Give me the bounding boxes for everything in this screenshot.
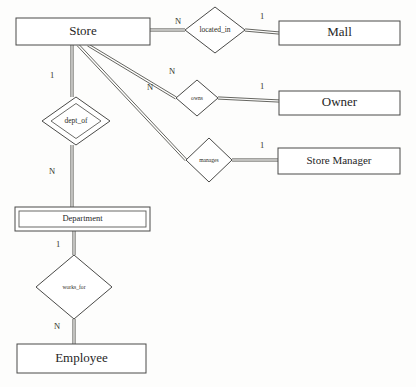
- cardinality-department-works_for: 1: [56, 239, 60, 249]
- relationship-works_for[interactable]: works_for: [36, 255, 112, 319]
- connector-layer: [71, 29, 279, 344]
- relationship-label: manages: [199, 157, 219, 163]
- cardinality-store-manages: N: [147, 82, 153, 92]
- entity-label: Department: [62, 213, 103, 223]
- entity-department[interactable]: Department: [15, 207, 150, 231]
- connector-located_in-to-mall: [245, 29, 279, 34]
- entity-label: Store: [69, 23, 97, 38]
- connector-department-to-works_for: [73, 231, 75, 255]
- entity-label: Mall: [327, 24, 352, 39]
- connector-store-to-located_in: [150, 29, 185, 31]
- cardinality-works_for-employee: N: [54, 321, 60, 331]
- connector-store-to-manages: [77, 44, 187, 161]
- cardinality-dept_of-department: N: [49, 166, 55, 176]
- relationship-located_in[interactable]: located_in: [185, 7, 245, 53]
- cardinality-store-owns: N: [169, 66, 175, 76]
- entity-store[interactable]: Store: [16, 18, 150, 45]
- connector-works_for-to-employee: [73, 319, 75, 344]
- entity-mall[interactable]: Mall: [279, 21, 400, 45]
- cardinality-store-located_in: N: [175, 16, 181, 26]
- connector-manages-to-store_manager: [232, 159, 278, 161]
- entity-employee[interactable]: Employee: [17, 344, 146, 373]
- relationship-layer: located_inownsmanagesdept_ofworks_for: [36, 7, 245, 319]
- entity-owner[interactable]: Owner: [279, 91, 400, 115]
- relationship-manages[interactable]: manages: [186, 138, 232, 182]
- entity-store_manager[interactable]: Store Manager: [278, 148, 400, 174]
- relationship-label: owns: [191, 95, 203, 101]
- connector-owns-to-owner: [218, 97, 279, 102]
- connector-store-to-dept_of: [71, 45, 73, 97]
- cardinality-located_in-mall: 1: [260, 11, 264, 21]
- er-diagram-canvas: located_inownsmanagesdept_ofworks_for St…: [0, 0, 416, 387]
- relationship-label: works_for: [63, 284, 86, 290]
- cardinality-owns-owner: 1: [260, 81, 264, 91]
- relationship-dept_of[interactable]: dept_of: [42, 97, 110, 145]
- entity-label: Store Manager: [306, 154, 371, 166]
- cardinality-manages-store_manager: 1: [260, 140, 264, 150]
- entity-label: Employee: [55, 350, 108, 365]
- relationship-owns[interactable]: owns: [176, 80, 218, 116]
- connector-dept_of-to-department: [71, 145, 73, 207]
- entity-label: Owner: [322, 94, 358, 109]
- cardinality-store-dept_of: 1: [50, 70, 54, 80]
- relationship-label: located_in: [199, 25, 230, 34]
- relationship-label: dept_of: [65, 116, 88, 125]
